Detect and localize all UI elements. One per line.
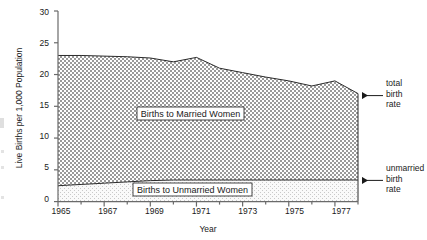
y-tick-label-10: 10 (40, 131, 50, 141)
y-tick-labels: 30 25 20 15 10 5 0 (40, 7, 50, 204)
y-axis-title: Live Births per 1,000 Population (14, 47, 24, 168)
plot-area (58, 55, 358, 201)
married-women-label: Births to Married Women (137, 107, 244, 120)
area-married-women (58, 55, 358, 185)
y-tick-label-25: 25 (40, 38, 50, 48)
unmarried-birth-rate-line2: birth (386, 174, 403, 184)
x-axis-title: Year (199, 224, 216, 234)
y-tick-label-20: 20 (40, 69, 50, 79)
total-birth-rate-line3: rate (386, 99, 401, 109)
scan-artifacts (0, 118, 4, 199)
total-birth-rate-line1: total (386, 78, 402, 88)
unmarried-women-label: Births to Unmarried Women (133, 183, 252, 196)
unmarried-birth-rate-annotation: unmarried birth rate (362, 163, 425, 194)
x-tick-label-1969: 1969 (145, 206, 164, 216)
y-tick-label-30: 30 (40, 7, 50, 17)
y-tick-label-0: 0 (44, 194, 49, 204)
x-tick-label-1967: 1967 (98, 206, 117, 216)
x-tick-label-1965: 1965 (52, 206, 71, 216)
chart-container: 30 25 20 15 10 5 0 1965 1967 1969 1971 1… (0, 0, 427, 240)
y-tick-label-5: 5 (44, 162, 49, 172)
unmarried-birth-rate-line1: unmarried (386, 163, 425, 173)
married-women-label-text: Births to Married Women (141, 109, 240, 119)
x-tick-labels: 1965 1967 1969 1971 1973 1975 1977 (52, 206, 351, 216)
total-birth-rate-line2: birth (386, 89, 403, 99)
unmarried-women-label-text: Births to Unmarried Women (137, 185, 248, 195)
x-tick-label-1971: 1971 (192, 206, 211, 216)
birth-rate-area-chart: 30 25 20 15 10 5 0 1965 1967 1969 1971 1… (0, 0, 427, 240)
total-birth-rate-annotation: total birth rate (362, 78, 403, 109)
unmarried-birth-rate-line3: rate (386, 184, 401, 194)
x-tick-label-1977: 1977 (332, 206, 351, 216)
y-tick-label-15: 15 (40, 100, 50, 110)
x-tick-label-1975: 1975 (285, 206, 304, 216)
y-axis (54, 11, 58, 202)
x-tick-label-1973: 1973 (238, 206, 257, 216)
